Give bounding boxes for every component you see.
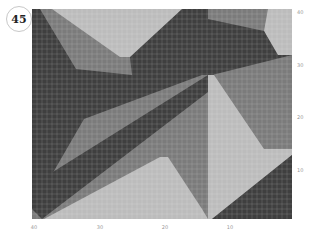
bottom-axis-tick-2: 20 (162, 224, 168, 230)
question-number: 45 (11, 13, 26, 26)
right-axis-tick-3: 10 (297, 167, 303, 173)
bottom-axis-tick-0: 40 (31, 224, 37, 230)
question-number-badge: 45 (6, 6, 32, 32)
pixel-grid-figure (32, 9, 292, 219)
bottom-axis-tick-1: 30 (97, 224, 103, 230)
right-axis-tick-2: 20 (297, 114, 303, 120)
grid-image (32, 9, 292, 219)
right-axis-tick-1: 30 (297, 62, 303, 68)
bottom-axis-tick-3: 10 (227, 224, 233, 230)
right-axis-tick-0: 40 (297, 9, 303, 15)
